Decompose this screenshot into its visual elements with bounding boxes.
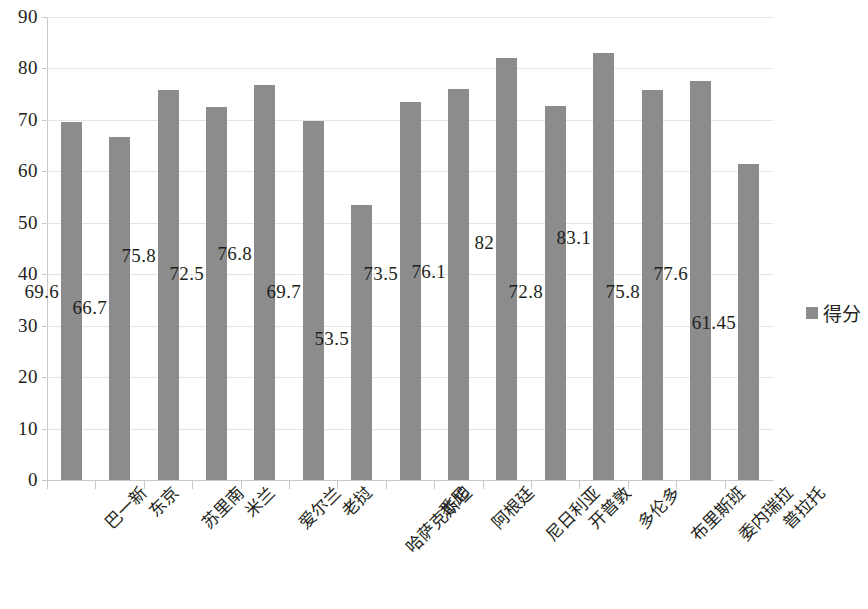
bar-value-label: 76.1 — [412, 261, 446, 283]
x-axis-category-label: 老挝 — [335, 480, 377, 522]
y-axis-tick-label: 20 — [18, 366, 38, 388]
y-axis-tick-label: 80 — [18, 57, 38, 79]
y-axis-tick — [42, 171, 47, 172]
bar[interactable] — [738, 164, 759, 480]
y-axis-tick — [42, 377, 47, 378]
bar-value-label: 73.5 — [364, 263, 398, 285]
bar[interactable] — [690, 81, 711, 480]
plot-area: 69.666.775.872.576.869.753.573.576.18272… — [47, 17, 773, 480]
bar[interactable] — [109, 137, 130, 480]
y-axis-tick — [42, 68, 47, 69]
y-axis-tick — [42, 326, 47, 327]
bar[interactable] — [593, 53, 614, 481]
bar-value-label: 61.45 — [692, 312, 736, 334]
bar[interactable] — [351, 205, 372, 480]
bar-value-label: 72.5 — [170, 263, 204, 285]
x-axis-category-label: 阿根廷 — [485, 480, 539, 534]
y-axis-line — [47, 17, 48, 480]
bar-value-label: 69.7 — [267, 281, 301, 303]
bar-value-label: 76.8 — [218, 243, 252, 265]
bar-value-label: 72.8 — [509, 281, 543, 303]
y-axis-tick-label: 10 — [18, 418, 38, 440]
y-axis-tick — [42, 429, 47, 430]
bar-value-label: 82 — [474, 232, 494, 254]
x-axis-category-label: 东京 — [142, 480, 184, 522]
y-axis-tick-label: 50 — [18, 212, 38, 234]
y-axis-tick — [42, 120, 47, 121]
bar-value-label: 77.6 — [654, 263, 688, 285]
y-axis-tick — [42, 223, 47, 224]
x-axis-category-label: 多伦多 — [631, 480, 685, 534]
bar[interactable] — [545, 106, 566, 481]
y-axis: 0102030405060708090 — [0, 0, 44, 609]
y-axis-tick-label: 70 — [18, 109, 38, 131]
y-axis-tick-label: 0 — [28, 469, 38, 491]
y-axis-tick-label: 30 — [18, 315, 38, 337]
bar-value-label: 75.8 — [606, 281, 640, 303]
bar-value-label: 66.7 — [73, 297, 107, 319]
bar-value-label: 75.8 — [122, 245, 156, 267]
y-axis-tick — [42, 274, 47, 275]
bar-value-label: 53.5 — [315, 328, 349, 350]
legend-label: 得分 — [823, 299, 861, 326]
x-axis-labels: 巴一新东京苏里南米兰爱尔兰老挝哈萨克斯坦悉尼阿根廷尼日利亚开普敦多伦多布里斯班委… — [47, 480, 773, 609]
y-axis-tick — [42, 17, 47, 18]
y-axis-tick-label: 90 — [18, 6, 38, 28]
bar-chart: 0102030405060708090 69.666.775.872.576.8… — [0, 0, 868, 609]
x-axis-category-label: 米兰 — [238, 480, 280, 522]
bar[interactable] — [206, 107, 227, 480]
legend: 得分 — [806, 299, 861, 326]
bar[interactable] — [303, 121, 324, 480]
bar[interactable] — [400, 102, 421, 480]
gridline — [47, 17, 773, 18]
bar-value-label: 83.1 — [557, 227, 591, 249]
gridline — [47, 68, 773, 69]
x-axis-category-label: 巴一新 — [98, 480, 152, 534]
y-axis-tick-label: 60 — [18, 160, 38, 182]
bar[interactable] — [496, 58, 517, 480]
bar[interactable] — [448, 89, 469, 480]
bar-value-label: 69.6 — [25, 281, 59, 303]
legend-swatch-icon — [806, 307, 818, 319]
